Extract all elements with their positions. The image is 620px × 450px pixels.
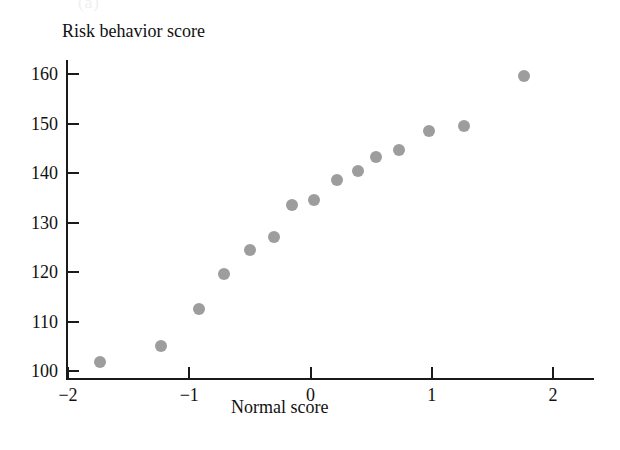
y-tick-label: 100 (12, 361, 58, 382)
y-axis-line (66, 60, 68, 380)
data-point (518, 70, 530, 82)
y-tick-mark (68, 172, 79, 174)
x-tick-mark (67, 367, 69, 378)
y-tick-mark (68, 222, 79, 224)
data-point (244, 244, 256, 256)
data-point (286, 199, 298, 211)
y-tick-label: 120 (12, 262, 58, 283)
y-tick-label: 130 (12, 212, 58, 233)
data-point (352, 165, 364, 177)
x-tick-mark (431, 367, 433, 378)
data-point (393, 144, 405, 156)
x-tick-label: 1 (417, 385, 447, 406)
x-tick-label: 0 (296, 385, 326, 406)
y-tick-label: 160 (12, 64, 58, 85)
y-tick-mark (68, 370, 79, 372)
data-point (423, 125, 435, 137)
y-tick-mark (68, 123, 79, 125)
x-tick-mark (188, 367, 190, 378)
y-tick-mark (68, 271, 79, 273)
y-tick-mark (68, 73, 79, 75)
x-tick-mark (310, 367, 312, 378)
y-tick-label: 110 (12, 311, 58, 332)
data-point (218, 268, 230, 280)
x-tick-label: −2 (53, 385, 83, 406)
plot-area: 100110120130140150160−2−1012 (0, 0, 620, 450)
data-point (268, 231, 280, 243)
data-point (94, 356, 106, 368)
data-point (331, 174, 343, 186)
data-point (155, 340, 167, 352)
normal-probability-plot-figure: (a) Risk behavior score Normal score 100… (0, 0, 620, 450)
data-point (458, 120, 470, 132)
y-tick-label: 140 (12, 163, 58, 184)
data-point (370, 151, 382, 163)
x-tick-label: 2 (538, 385, 568, 406)
x-tick-mark (552, 367, 554, 378)
y-tick-mark (68, 321, 79, 323)
data-point (193, 303, 205, 315)
y-tick-label: 150 (12, 113, 58, 134)
data-point (308, 194, 320, 206)
x-axis-line (66, 378, 594, 380)
x-tick-label: −1 (174, 385, 204, 406)
